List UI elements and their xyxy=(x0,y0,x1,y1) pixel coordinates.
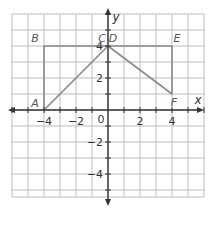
x-tick-label: 2 xyxy=(137,115,144,128)
y-axis-label: y xyxy=(111,10,120,24)
x-axis-arrow-right-icon xyxy=(197,107,204,113)
point-label-a: A xyxy=(30,97,39,110)
x-tick-label: −4 xyxy=(36,115,52,128)
x-tick-label: −2 xyxy=(68,115,84,128)
point-label-b: B xyxy=(31,32,39,45)
y-axis-arrow-down-icon xyxy=(105,199,111,206)
point-labels: ABCDEF xyxy=(30,32,180,110)
x-axis-label: x xyxy=(193,93,202,107)
coordinate-plane: xy −4−22442−2−40 ABCDEF xyxy=(0,0,213,227)
origin-label: 0 xyxy=(98,113,105,126)
point-label-c: C xyxy=(98,32,106,45)
y-tick-label: −2 xyxy=(87,136,103,149)
y-tick-label: −4 xyxy=(87,168,103,181)
y-tick-label: 2 xyxy=(96,72,103,85)
point-label-d: D xyxy=(109,32,117,45)
point-label-f: F xyxy=(171,96,178,109)
point-label-e: E xyxy=(174,32,181,45)
x-tick-label: 4 xyxy=(169,115,176,128)
